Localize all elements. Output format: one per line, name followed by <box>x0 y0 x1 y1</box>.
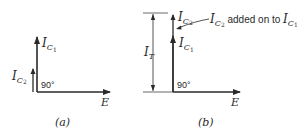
it-arrow-down-icon <box>151 85 155 91</box>
e-label-b: E <box>230 96 239 109</box>
annotation-text: IC2 added on to IC1 <box>209 12 298 28</box>
caption-a: (a) <box>55 116 70 129</box>
ic1-label-a: IC1 <box>41 36 57 53</box>
ic1-label-b: IC1 <box>178 36 194 53</box>
diagram-b: IT IC2 IC1 IC2 added on to IC1 90° E (b) <box>143 10 298 129</box>
ic2-label-b: IC2 <box>177 10 193 26</box>
diagram-a: IC1 IC2 90° E (a) <box>11 36 110 129</box>
caption-b: (b) <box>198 116 214 129</box>
phasor-diagrams: IC1 IC2 90° E (a) IT IC2 IC1 <box>0 0 300 136</box>
angle-label-b: 90° <box>177 80 191 90</box>
e-label-a: E <box>100 96 109 109</box>
ic2-label-a: IC2 <box>11 69 27 85</box>
annotation-leader-arrow-icon <box>176 26 182 30</box>
it-arrow-up-icon <box>151 14 155 20</box>
angle-label-a: 90° <box>41 80 55 90</box>
